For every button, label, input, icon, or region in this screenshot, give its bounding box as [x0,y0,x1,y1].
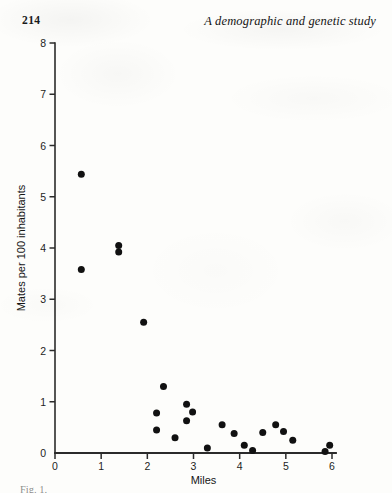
data-point [249,447,256,454]
ytick-label: 0 [40,447,46,459]
ytick-label: 8 [40,37,46,49]
data-point [78,266,85,273]
xtick-label: 6 [329,460,335,472]
data-points [78,171,333,455]
ytick-label: 2 [40,345,46,357]
data-point [172,434,179,441]
ytick-label: 6 [40,140,46,152]
data-point [160,383,167,390]
data-point [189,409,196,416]
ytick-label: 5 [40,191,46,203]
data-point [259,429,266,436]
ytick-label: 4 [40,242,46,254]
data-point [140,319,147,326]
data-point [183,401,190,408]
xtick-label: 4 [237,460,243,472]
data-point [280,428,287,435]
xtick-label: 3 [191,460,197,472]
axis-titles: MilesMates per 100 inhabitants [15,184,217,486]
xtick-label: 5 [283,460,289,472]
ytick-label: 3 [40,293,46,305]
data-point [326,442,333,449]
axes [55,43,336,453]
data-point [153,410,160,417]
data-point [153,426,160,433]
xtick-label: 1 [98,460,104,472]
axis-ticks [50,43,333,459]
data-point [115,249,122,256]
y-axis-title: Mates per 100 inhabitants [15,184,27,311]
ytick-label: 7 [40,88,46,100]
data-point [183,417,190,424]
data-point [219,421,226,428]
data-point [204,444,211,451]
ytick-label: 1 [40,396,46,408]
data-point [322,448,329,455]
data-point [78,171,85,178]
data-point [231,430,238,437]
xtick-label: 0 [52,460,58,472]
data-point [115,242,122,249]
figure-caption: Fig. 1. [20,484,380,493]
data-point [241,442,248,449]
data-point [289,437,296,444]
data-point [272,421,279,428]
xtick-label: 2 [144,460,150,472]
